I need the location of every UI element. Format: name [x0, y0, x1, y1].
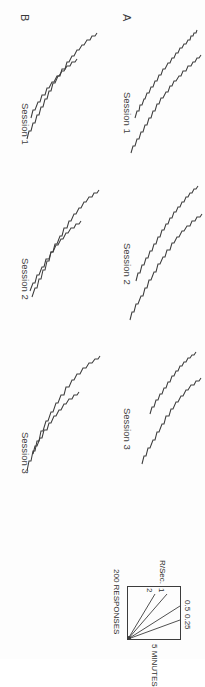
panel-b-records: [0, 0, 103, 659]
legend-rate-fan: [127, 586, 181, 640]
cumulative-record-line: [150, 352, 196, 414]
legend-rate-tick-1: 1: [157, 588, 166, 592]
cumulative-record-line: [27, 33, 97, 139]
cumulative-record-line: [33, 392, 79, 454]
cumulative-record-line: [130, 214, 202, 320]
panel-a: A Session 1 Session 2 Session 3: [103, 0, 205, 659]
cumulative-record-line: [32, 190, 99, 297]
legend-x-axis-label: 5 MINUTES: [150, 644, 159, 687]
cumulative-record-line: [131, 55, 201, 153]
rate-legend: R/Sec. 2 1 0.5 0.25 5 MINUTES 200 RESPON…: [127, 586, 181, 640]
cumulative-record-line: [27, 356, 100, 471]
legend-rate-axis-label: R/Sec.: [158, 560, 167, 584]
cumulative-record-line: [31, 59, 77, 118]
legend-rate-tick-0point5: 0.5: [183, 600, 192, 611]
cumulative-record-line: [135, 30, 197, 118]
panel-b: B Session 1 Session 2 Session 3: [1, 0, 103, 659]
cumulative-record-line: [136, 186, 198, 281]
legend-rate-tick-2: 2: [145, 588, 154, 592]
rate-line-2: [128, 594, 155, 639]
legend-y-axis-label: 200 RESPONSES: [112, 569, 121, 634]
panel-b-curves: [27, 33, 100, 471]
panel-a-records: [103, 0, 205, 659]
cumulative-record-line: [30, 221, 81, 291]
legend-rate-tick-0point25: 0.25: [183, 614, 192, 630]
panel-a-curves: [130, 30, 202, 464]
cumulative-record-line: [142, 378, 201, 464]
